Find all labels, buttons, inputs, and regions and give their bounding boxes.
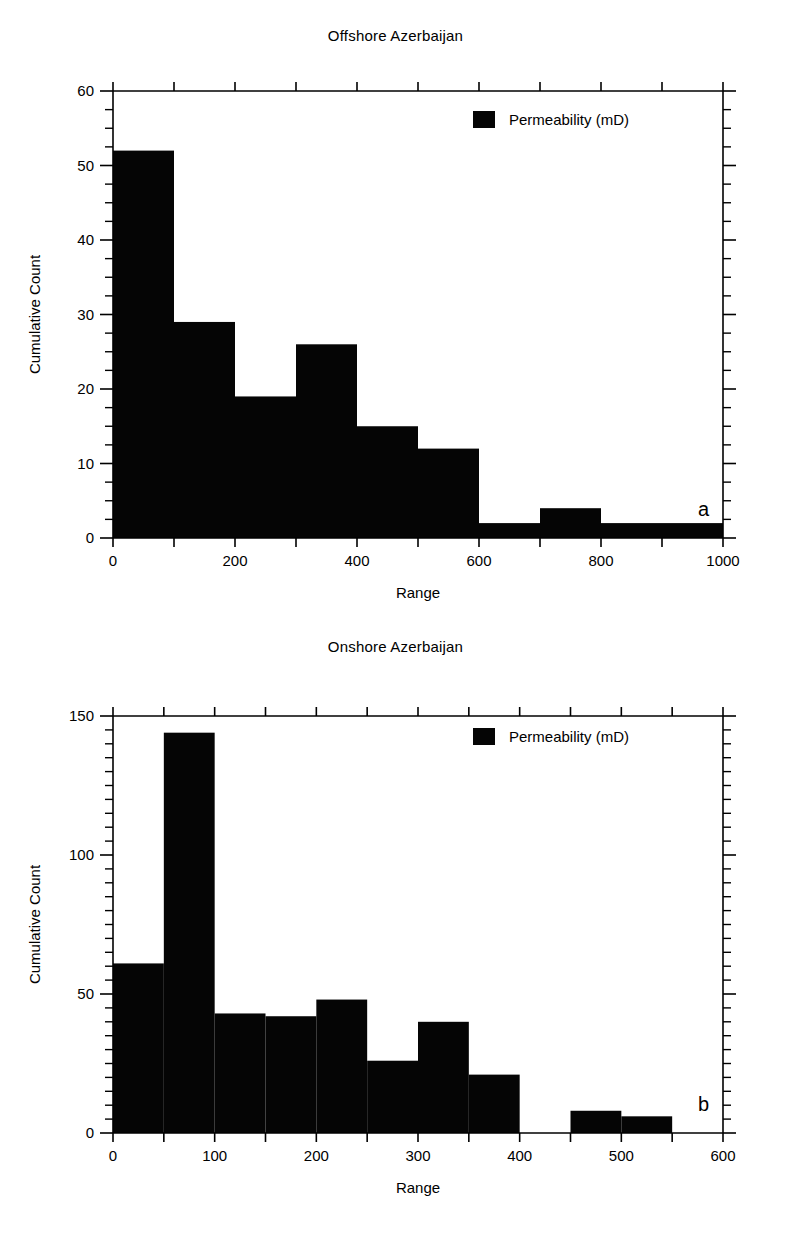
bars-group xyxy=(113,151,723,538)
bar-500-550 xyxy=(621,1116,672,1133)
y-tick-label: 50 xyxy=(77,157,94,174)
y-tick-label: 150 xyxy=(69,707,94,724)
y-tick-labels: 0102030405060 xyxy=(77,82,94,546)
bar-200-300 xyxy=(235,396,296,538)
bar-900-1000 xyxy=(662,523,723,538)
x-tick-label: 600 xyxy=(710,1147,735,1164)
x-tick-label: 200 xyxy=(304,1147,329,1164)
x-axis-title: Range xyxy=(396,1179,440,1196)
legend-swatch xyxy=(473,728,495,745)
x-tick-label: 100 xyxy=(202,1147,227,1164)
panel-letter: a xyxy=(698,498,710,520)
x-tick-label: 400 xyxy=(344,552,369,569)
x-tick-label: 0 xyxy=(109,552,117,569)
x-tick-label: 1000 xyxy=(706,552,739,569)
legend-label: Permeability (mD) xyxy=(509,728,629,745)
y-tick-label: 50 xyxy=(77,985,94,1002)
y-axis-title: Cumulative Count xyxy=(26,864,43,984)
x-tick-labels: 0100200300400500600 xyxy=(109,1147,736,1164)
bar-800-900 xyxy=(601,523,662,538)
bar-200-250 xyxy=(316,1000,367,1133)
x-axis-title: Range xyxy=(396,584,440,601)
bar-100-200 xyxy=(174,322,235,538)
x-tick-label: 400 xyxy=(507,1147,532,1164)
x-tick-label: 300 xyxy=(405,1147,430,1164)
chart-b-canvas: 0100200300400500600050100150RangeCumulat… xyxy=(0,620,791,1255)
figure-panel-a: Offshore Azerbaijan 02004006008001000010… xyxy=(0,0,791,620)
bar-300-350 xyxy=(418,1022,469,1133)
plot-area: 020040060080010000102030405060RangeCumul… xyxy=(26,82,740,601)
bar-300-400 xyxy=(296,344,357,538)
bar-0-100 xyxy=(113,151,174,538)
bar-50-100 xyxy=(164,733,215,1133)
bar-450-500 xyxy=(571,1111,622,1133)
y-tick-label: 10 xyxy=(77,455,94,472)
bar-700-800 xyxy=(540,508,601,538)
y-axis-title: Cumulative Count xyxy=(26,254,43,374)
chart-a-canvas: 020040060080010000102030405060RangeCumul… xyxy=(0,0,791,620)
figure-page: Offshore Azerbaijan 02004006008001000010… xyxy=(0,0,791,1255)
bar-150-200 xyxy=(266,1016,317,1133)
y-tick-label: 60 xyxy=(77,82,94,99)
y-tick-label: 100 xyxy=(69,846,94,863)
y-tick-label: 20 xyxy=(77,380,94,397)
y-tick-label: 0 xyxy=(86,1124,94,1141)
plot-area: 0100200300400500600050100150RangeCumulat… xyxy=(26,707,736,1196)
bar-600-700 xyxy=(479,523,540,538)
y-tick-label: 0 xyxy=(86,529,94,546)
bars-group xyxy=(113,733,672,1133)
y-tick-labels: 050100150 xyxy=(69,707,94,1141)
bar-350-400 xyxy=(469,1075,520,1133)
x-tick-label: 200 xyxy=(222,552,247,569)
legend: Permeability (mD) xyxy=(473,111,629,128)
x-tick-label: 600 xyxy=(466,552,491,569)
legend-label: Permeability (mD) xyxy=(509,111,629,128)
bar-250-300 xyxy=(367,1061,418,1133)
bar-100-150 xyxy=(215,1013,266,1133)
panel-letter: b xyxy=(698,1093,709,1115)
legend: Permeability (mD) xyxy=(473,728,629,745)
chart-title-a: Offshore Azerbaijan xyxy=(0,27,791,44)
x-tick-label: 500 xyxy=(609,1147,634,1164)
figure-panel-b: Onshore Azerbaijan 010020030040050060005… xyxy=(0,620,791,1255)
y-tick-label: 40 xyxy=(77,231,94,248)
y-tick-label: 30 xyxy=(77,306,94,323)
legend-swatch xyxy=(473,111,495,128)
chart-title-b: Onshore Azerbaijan xyxy=(0,638,791,655)
x-tick-label: 800 xyxy=(588,552,613,569)
x-tick-labels: 02004006008001000 xyxy=(109,552,740,569)
bar-500-600 xyxy=(418,449,479,538)
x-tick-label: 0 xyxy=(109,1147,117,1164)
bar-400-500 xyxy=(357,426,418,538)
bar-0-50 xyxy=(113,963,164,1133)
